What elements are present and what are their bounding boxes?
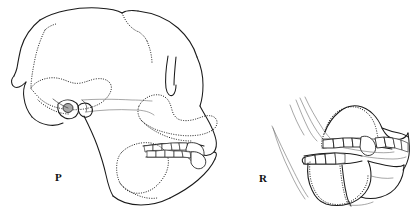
skull-figure-canvas: P — [0, 0, 413, 211]
r-max-m2 — [333, 138, 344, 148]
r-max-m1 — [343, 138, 353, 147]
figure-root: P — [0, 0, 413, 211]
p-max-p4 — [171, 143, 180, 150]
specimen-label-r: R — [259, 172, 268, 184]
r-max-m3 — [323, 139, 334, 148]
r-man-m2 — [335, 153, 345, 164]
p-man-p3 — [182, 151, 191, 158]
p-man-m2 — [156, 150, 165, 157]
r-man-m1 — [325, 153, 336, 164]
r-man-p3 — [305, 155, 316, 164]
p-man-m1 — [165, 150, 174, 157]
p-man-p4 — [174, 151, 183, 157]
p-man-m3 — [147, 151, 156, 157]
r-man-p4 — [315, 154, 326, 164]
specimen-label-p: P — [55, 171, 62, 183]
